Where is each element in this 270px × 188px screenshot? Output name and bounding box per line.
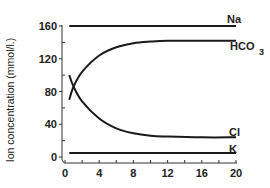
line-chart: 04080120160048121620 NaHCO3ClK [0,0,270,188]
label-k: K [229,143,237,155]
y-tick-label: 160 [39,20,57,32]
x-tick-label: 0 [62,167,68,179]
y-tick-label: 40 [45,118,57,130]
x-tick-label: 16 [196,167,208,179]
x-tick-label: 20 [230,167,242,179]
y-tick-label: 0 [51,151,57,163]
y-tick-label: 80 [45,86,57,98]
x-tick-label: 4 [96,167,103,179]
label-na: Na [227,13,242,25]
series-labels: NaHCO3ClK [227,13,264,155]
x-tick-label: 8 [130,167,136,179]
label-hco3: HCO [230,40,255,52]
x-tick-label: 12 [161,167,173,179]
series-line-hco3 [69,41,236,100]
series-line-cl [69,75,236,137]
y-tick-label: 120 [39,53,57,65]
label-cl: Cl [229,126,240,138]
data-lines [69,26,236,153]
label-hco3-subscript: 3 [259,47,264,57]
